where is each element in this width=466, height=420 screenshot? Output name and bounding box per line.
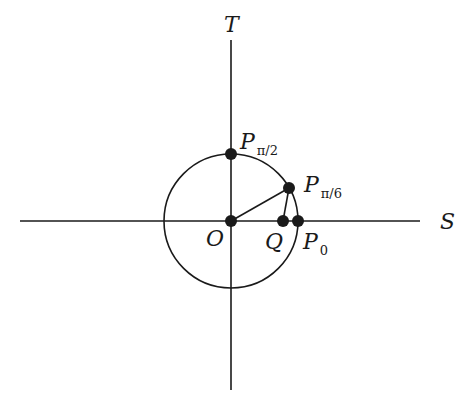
point-q [277, 215, 289, 227]
origin-label: O [206, 226, 224, 251]
unit-circle-diagram: T S O Pπ/2 Pπ/6 Q P0 [0, 0, 466, 420]
t-axis-label: T [224, 12, 241, 37]
p-pi-6-main: P [303, 172, 320, 197]
p-pi-6-label: Pπ/6 [303, 172, 342, 201]
point-origin [225, 215, 237, 227]
p-pi-2-main: P [239, 129, 256, 154]
p-pi-2-label: Pπ/2 [239, 129, 278, 158]
q-label: Q [265, 229, 283, 254]
s-axis-label: S [440, 209, 455, 234]
point-p-pi-6 [283, 182, 295, 194]
p-0-label: P0 [302, 229, 328, 258]
point-p-0 [292, 215, 304, 227]
p-pi-2-subscript: π/2 [257, 143, 278, 158]
point-p-pi-2 [225, 148, 237, 160]
p-pi-6-subscript: π/6 [321, 186, 342, 201]
p-0-main: P [302, 229, 319, 254]
p-0-subscript: 0 [320, 243, 328, 258]
